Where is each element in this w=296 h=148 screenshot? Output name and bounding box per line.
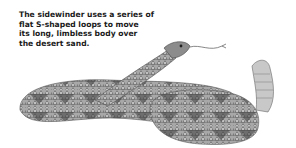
caption-line: The sidewinder uses a series of [19, 10, 169, 20]
caption-line: the desert sand. [19, 39, 169, 49]
snake-eye [180, 45, 183, 48]
caption-text: The sidewinder uses a series of flat S-s… [19, 10, 169, 48]
snake-tail-rattle [252, 60, 274, 112]
caption-line: flat S-shaped loops to move [19, 20, 169, 30]
caption-line: its long, limbless body over [19, 29, 169, 39]
snake-body-front-coil [150, 90, 259, 145]
snake-tongue [190, 44, 226, 48]
